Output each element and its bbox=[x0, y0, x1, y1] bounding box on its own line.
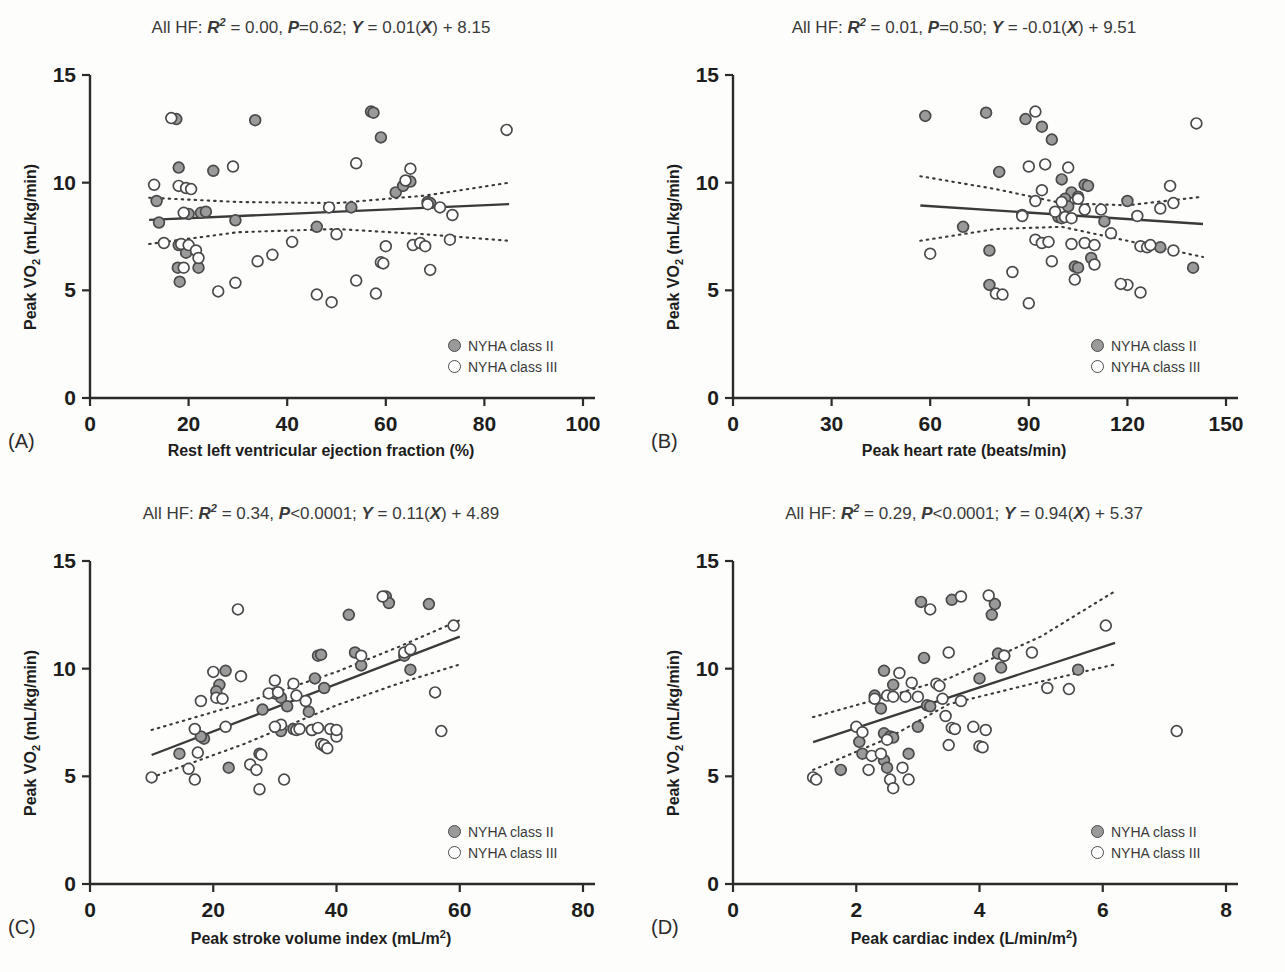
panel-b-plot-area: 0510150306090120150 bbox=[643, 0, 1285, 486]
svg-text:60: 60 bbox=[919, 412, 942, 435]
legend-label-class2: NYHA class II bbox=[1111, 824, 1197, 840]
legend-label-class2: NYHA class II bbox=[468, 824, 554, 840]
legend-label-class3: NYHA class III bbox=[468, 359, 557, 375]
panel-a-tag: (A) bbox=[8, 430, 35, 453]
panel-a-x-axis-label: Rest left ventricular ejection fraction … bbox=[0, 442, 642, 460]
svg-text:0: 0 bbox=[84, 412, 96, 435]
series-class3 bbox=[808, 590, 1182, 794]
panel-c-svg: 051015020406080 bbox=[0, 486, 642, 972]
legend-item-class2: NYHA class II bbox=[448, 821, 557, 842]
svg-text:90: 90 bbox=[1017, 412, 1040, 435]
legend-marker-class2-icon bbox=[1091, 339, 1104, 352]
panel-d: All HF: R2 = 0.29, P<0.0001; Y = 0.94(X)… bbox=[643, 486, 1285, 972]
panel-c-legend: NYHA class II NYHA class III bbox=[448, 821, 557, 863]
panel-a-legend: NYHA class II NYHA class III bbox=[448, 335, 557, 377]
svg-text:15: 15 bbox=[53, 63, 77, 86]
legend-item-class2: NYHA class II bbox=[448, 335, 557, 356]
panel-d-svg: 05101502468 bbox=[643, 486, 1285, 972]
legend-marker-class3-icon bbox=[1091, 846, 1104, 859]
legend-marker-class2-icon bbox=[448, 825, 461, 838]
panel-c-tag: (C) bbox=[8, 916, 36, 939]
svg-text:5: 5 bbox=[707, 278, 719, 301]
panel-b-svg: 0510150306090120150 bbox=[643, 0, 1285, 486]
svg-text:0: 0 bbox=[727, 412, 739, 435]
legend-marker-class2-icon bbox=[1091, 825, 1104, 838]
svg-text:150: 150 bbox=[1208, 412, 1243, 435]
svg-text:6: 6 bbox=[1097, 898, 1109, 921]
legend-item-class3: NYHA class III bbox=[1091, 356, 1200, 377]
svg-text:5: 5 bbox=[64, 278, 76, 301]
legend-label-class3: NYHA class III bbox=[1111, 359, 1200, 375]
legend-item-class3: NYHA class III bbox=[1091, 842, 1200, 863]
panel-a-svg: 051015020406080100 bbox=[0, 0, 642, 486]
legend-marker-class3-icon bbox=[448, 360, 461, 373]
legend-marker-class3-icon bbox=[448, 846, 461, 859]
svg-text:0: 0 bbox=[707, 386, 719, 409]
panel-d-plot-area: 05101502468 bbox=[643, 486, 1285, 972]
svg-text:30: 30 bbox=[820, 412, 843, 435]
panel-b-tag: (B) bbox=[651, 430, 678, 453]
panel-c-x-axis-label: Peak stroke volume index (mL/m2) bbox=[0, 928, 642, 948]
svg-text:5: 5 bbox=[64, 764, 76, 787]
svg-text:60: 60 bbox=[374, 412, 397, 435]
panel-c-y-axis-label: Peak VO2 (mL/kg/min) bbox=[22, 650, 42, 816]
svg-text:2: 2 bbox=[850, 898, 862, 921]
legend-item-class2: NYHA class II bbox=[1091, 335, 1200, 356]
panel-d-y-axis-label: Peak VO2 (mL/kg/min) bbox=[665, 650, 685, 816]
panel-a: All HF: R2 = 0.00, P=0.62; Y = 0.01(X) +… bbox=[0, 0, 642, 486]
svg-text:60: 60 bbox=[448, 898, 471, 921]
svg-text:20: 20 bbox=[177, 412, 200, 435]
svg-text:15: 15 bbox=[53, 549, 77, 572]
svg-text:100: 100 bbox=[565, 412, 600, 435]
svg-text:15: 15 bbox=[696, 549, 720, 572]
legend-label-class3: NYHA class III bbox=[468, 845, 557, 861]
svg-text:10: 10 bbox=[53, 657, 76, 680]
svg-text:5: 5 bbox=[707, 764, 719, 787]
panel-c: All HF: R2 = 0.34, P<0.0001; Y = 0.11(X)… bbox=[0, 486, 642, 972]
panel-a-y-axis-label: Peak VO2 (mL/kg/min) bbox=[22, 164, 42, 330]
panel-b: All HF: R2 = 0.01, P=0.50; Y = -0.01(X) … bbox=[643, 0, 1285, 486]
svg-text:20: 20 bbox=[202, 898, 225, 921]
svg-text:10: 10 bbox=[696, 657, 719, 680]
svg-text:0: 0 bbox=[64, 872, 76, 895]
svg-text:4: 4 bbox=[974, 898, 986, 921]
svg-text:40: 40 bbox=[325, 898, 348, 921]
panel-d-x-axis-label: Peak cardiac index (L/min/m2) bbox=[643, 928, 1285, 948]
svg-text:0: 0 bbox=[64, 386, 76, 409]
series-class3 bbox=[146, 591, 459, 795]
svg-text:120: 120 bbox=[1110, 412, 1145, 435]
svg-text:10: 10 bbox=[53, 171, 76, 194]
svg-text:8: 8 bbox=[1220, 898, 1232, 921]
panel-b-x-axis-label: Peak heart rate (beats/min) bbox=[643, 442, 1285, 460]
series-class2 bbox=[174, 591, 434, 773]
legend-label-class2: NYHA class II bbox=[468, 338, 554, 354]
svg-text:0: 0 bbox=[727, 898, 739, 921]
panel-d-legend: NYHA class II NYHA class III bbox=[1091, 821, 1200, 863]
panel-b-legend: NYHA class II NYHA class III bbox=[1091, 335, 1200, 377]
svg-text:80: 80 bbox=[473, 412, 496, 435]
legend-item-class2: NYHA class II bbox=[1091, 821, 1200, 842]
legend-item-class3: NYHA class III bbox=[448, 842, 557, 863]
svg-text:15: 15 bbox=[696, 63, 720, 86]
panel-d-tag: (D) bbox=[651, 916, 679, 939]
panel-c-plot-area: 051015020406080 bbox=[0, 486, 642, 972]
svg-text:80: 80 bbox=[571, 898, 594, 921]
legend-marker-class3-icon bbox=[1091, 360, 1104, 373]
panel-b-y-axis-label: Peak VO2 (mL/kg/min) bbox=[665, 164, 685, 330]
figure-four-panel-scatter: All HF: R2 = 0.00, P=0.62; Y = 0.01(X) +… bbox=[0, 0, 1285, 972]
svg-text:0: 0 bbox=[707, 872, 719, 895]
legend-label-class2: NYHA class II bbox=[1111, 338, 1197, 354]
svg-text:10: 10 bbox=[696, 171, 719, 194]
svg-text:40: 40 bbox=[276, 412, 299, 435]
legend-item-class3: NYHA class III bbox=[448, 356, 557, 377]
legend-marker-class2-icon bbox=[448, 339, 461, 352]
panel-a-plot-area: 051015020406080100 bbox=[0, 0, 642, 486]
legend-label-class3: NYHA class III bbox=[1111, 845, 1200, 861]
svg-text:0: 0 bbox=[84, 898, 96, 921]
